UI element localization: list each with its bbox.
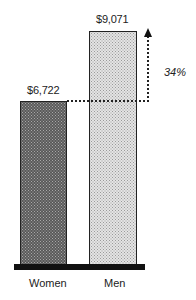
- category-label-women: Women: [29, 277, 67, 289]
- x-axis-baseline: [14, 264, 145, 270]
- bar-women: [20, 101, 67, 265]
- difference-percent-label: 34%: [164, 66, 186, 78]
- difference-arrow-shaft: [147, 36, 149, 102]
- difference-guide-line: [67, 100, 149, 102]
- category-label-men: Men: [104, 277, 125, 289]
- men-value-label: $9,071: [96, 13, 128, 25]
- women-value-label: $6,722: [27, 84, 59, 96]
- arrow-up-icon: [144, 28, 152, 37]
- bar-men: [89, 31, 137, 265]
